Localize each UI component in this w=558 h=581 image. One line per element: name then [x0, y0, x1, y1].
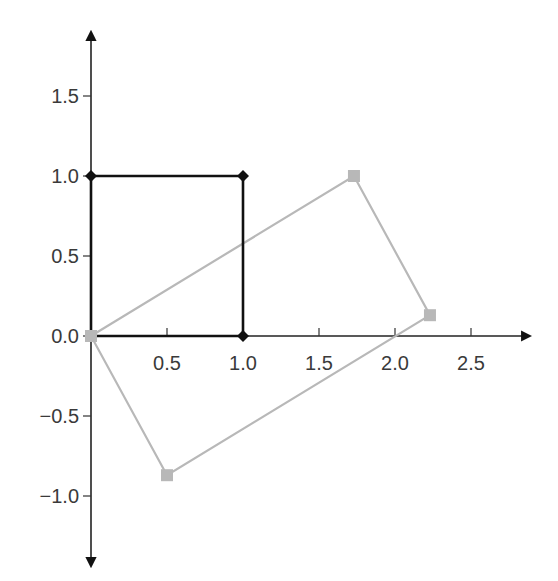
square-marker-icon — [348, 170, 360, 182]
chart-plot: 0.51.01.52.02.51.51.00.50.0−0.5−1.0 — [0, 0, 558, 581]
y-tick-label: 1.5 — [51, 85, 79, 107]
x-tick-label: 2.0 — [381, 352, 409, 374]
y-tick-label: −1.0 — [40, 485, 79, 507]
square-marker-icon — [161, 469, 173, 481]
series-transformed-rectangle — [91, 176, 430, 475]
y-tick-label: 1.0 — [51, 165, 79, 187]
tick-marks — [83, 96, 471, 496]
data-series — [85, 170, 436, 481]
y-tick-label: 0.5 — [51, 245, 79, 267]
x-tick-label: 1.5 — [305, 352, 333, 374]
series-unit-square — [91, 176, 243, 336]
diamond-marker-icon — [85, 170, 97, 182]
tick-labels: 0.51.01.52.02.51.51.00.50.0−0.5−1.0 — [40, 85, 485, 507]
square-marker-icon — [85, 330, 97, 342]
series-outline — [91, 176, 430, 475]
y-tick-label: 0.0 — [51, 325, 79, 347]
x-tick-label: 1.0 — [229, 352, 257, 374]
y-tick-label: −0.5 — [40, 405, 79, 427]
series-outline — [91, 176, 243, 336]
axes — [91, 32, 530, 566]
diamond-marker-icon — [237, 170, 249, 182]
x-tick-label: 2.5 — [457, 352, 485, 374]
diamond-marker-icon — [237, 330, 249, 342]
square-marker-icon — [424, 309, 436, 321]
x-tick-label: 0.5 — [153, 352, 181, 374]
